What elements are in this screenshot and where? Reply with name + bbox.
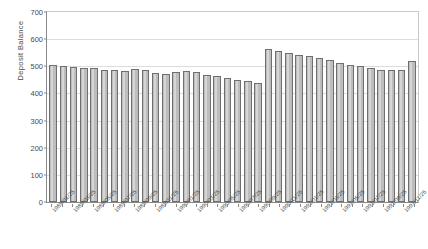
x-axis-tick-mark — [372, 204, 373, 207]
bar-slot — [48, 12, 58, 202]
x-axis-tick-mark — [227, 204, 228, 207]
bar[interactable] — [80, 68, 88, 202]
y-axis-tick-label: 100 — [30, 170, 43, 179]
bar[interactable] — [275, 51, 283, 202]
bar[interactable] — [111, 70, 119, 202]
bar[interactable] — [224, 78, 232, 202]
x-axis-tick-mark — [331, 204, 332, 207]
bar[interactable] — [367, 68, 375, 202]
bar[interactable] — [142, 70, 150, 202]
y-axis-tick-label: 300 — [30, 116, 43, 125]
bar-slot — [356, 12, 366, 202]
bar-slot — [345, 12, 355, 202]
x-axis-tick-mark — [248, 204, 249, 207]
x-axis-tick-mark — [207, 204, 208, 207]
bar-slot — [151, 12, 161, 202]
bar[interactable] — [70, 67, 78, 202]
bar-slot — [407, 12, 417, 202]
x-axis-tick-mark — [414, 204, 415, 207]
bar-slot — [192, 12, 202, 202]
bar[interactable] — [49, 65, 57, 202]
bar-slot — [69, 12, 79, 202]
x-axis-tick-mark — [352, 204, 353, 207]
bar-slot — [243, 12, 253, 202]
bar[interactable] — [336, 63, 344, 202]
bar[interactable] — [357, 66, 365, 202]
bar-slot — [89, 12, 99, 202]
bar[interactable] — [377, 70, 385, 202]
x-axis-tick-mark — [124, 204, 125, 207]
bar-slot — [263, 12, 273, 202]
bar[interactable] — [347, 65, 355, 202]
bar-slot — [171, 12, 181, 202]
x-axis-tick-mark — [310, 204, 311, 207]
bar[interactable] — [234, 80, 242, 202]
bar-slot — [335, 12, 345, 202]
x-axis-tick-mark — [269, 204, 270, 207]
x-axis-tick-mark — [103, 204, 104, 207]
bar[interactable] — [203, 75, 211, 202]
bar[interactable] — [162, 74, 170, 202]
x-axis-tick-mark — [176, 204, 177, 207]
bar-slot — [274, 12, 284, 202]
bar-slot — [212, 12, 222, 202]
bar-slot — [140, 12, 150, 202]
y-axis-title: Deposit Balance — [16, 0, 25, 131]
bar[interactable] — [90, 68, 98, 202]
x-axis-tick-mark — [321, 204, 322, 207]
x-axis-tick-mark — [393, 204, 394, 207]
bar[interactable] — [295, 55, 303, 202]
y-axis-tick-label: 700 — [30, 8, 43, 17]
bar[interactable] — [121, 71, 129, 202]
bar[interactable] — [131, 69, 139, 202]
bar-slot — [79, 12, 89, 202]
bar-slot — [325, 12, 335, 202]
bar-slot — [120, 12, 130, 202]
bar-slot — [181, 12, 191, 202]
x-axis-tick-mark — [165, 204, 166, 207]
bar[interactable] — [408, 61, 416, 202]
bar-slot — [294, 12, 304, 202]
bar-slot — [99, 12, 109, 202]
bar-slot — [233, 12, 243, 202]
x-axis-tick-mark — [144, 204, 145, 207]
x-axis-tick-mark — [82, 204, 83, 207]
bar[interactable] — [254, 83, 262, 202]
bar[interactable] — [306, 56, 314, 202]
bar-slot — [110, 12, 120, 202]
bar[interactable] — [101, 70, 109, 202]
bar[interactable] — [213, 76, 221, 202]
bar-slot — [222, 12, 232, 202]
bar[interactable] — [388, 70, 396, 202]
bar-slot — [130, 12, 140, 202]
bar[interactable] — [265, 49, 273, 202]
bar-slot — [304, 12, 314, 202]
bar-slot — [202, 12, 212, 202]
bar[interactable] — [193, 72, 201, 202]
bar[interactable] — [172, 72, 180, 202]
y-axis-tick-label: 500 — [30, 62, 43, 71]
bar[interactable] — [152, 73, 160, 202]
bar[interactable] — [285, 53, 293, 202]
x-axis-tick-mark — [186, 204, 187, 207]
bar-slot — [376, 12, 386, 202]
bar-slot — [58, 12, 68, 202]
bar-slot — [253, 12, 263, 202]
y-axis-tick-label: 200 — [30, 143, 43, 152]
bar[interactable] — [398, 70, 406, 202]
x-axis: 1989/01/251989/03/251989/05/251989/07/25… — [46, 204, 419, 249]
bar-slot — [386, 12, 396, 202]
bar[interactable] — [326, 60, 334, 202]
y-axis-tick-label: 0 — [39, 198, 43, 207]
bar[interactable] — [244, 81, 252, 202]
y-axis-tick-label: 400 — [30, 89, 43, 98]
bar[interactable] — [60, 66, 68, 202]
plot-area: 0100200300400500600700 — [46, 11, 419, 203]
bar-slot — [366, 12, 376, 202]
bar-series — [47, 12, 418, 202]
bar[interactable] — [183, 71, 191, 202]
bar-slot — [284, 12, 294, 202]
bar[interactable] — [316, 58, 324, 202]
bar-slot — [397, 12, 407, 202]
